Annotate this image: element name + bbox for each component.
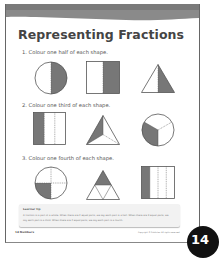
question-1: 1. Colour one half of each shape.: [22, 49, 108, 55]
circle-half-shape[interactable]: [34, 61, 68, 95]
tip-line-2: say each part is a third. When there are…: [23, 219, 123, 222]
rectangle-quarters-shape[interactable]: [141, 166, 175, 199]
rectangle-thirds-shape[interactable]: [33, 112, 66, 145]
rectangle-half-shape[interactable]: [86, 61, 120, 94]
learner-tip-box: Learner tip A fraction is a part of a wh…: [19, 204, 180, 227]
footer-copyright: Copyright © Publisher. All rights reserv…: [138, 231, 180, 233]
header-band: [6, 4, 199, 26]
circle-quarters-shape[interactable]: [34, 166, 68, 200]
circle-thirds-shape[interactable]: [141, 113, 175, 147]
triangle-quarters-shape[interactable]: [86, 170, 120, 200]
page-title: Representing Fractions: [18, 27, 184, 42]
question-3: 3. Colour one fourth of each shape.: [22, 155, 114, 161]
page-number: 14: [191, 232, 209, 247]
footer-section-label: 14 Numbers: [15, 230, 34, 234]
page-number-badge: 14: [187, 226, 219, 258]
triangle-half-shape[interactable]: [141, 64, 175, 93]
tip-title: Learner tip: [23, 207, 41, 211]
question-2: 2. Colour one third of each shape.: [22, 102, 110, 108]
tip-line-1: A fraction is a part of a whole. When th…: [23, 214, 169, 217]
triangle-thirds-shape[interactable]: [86, 115, 120, 145]
